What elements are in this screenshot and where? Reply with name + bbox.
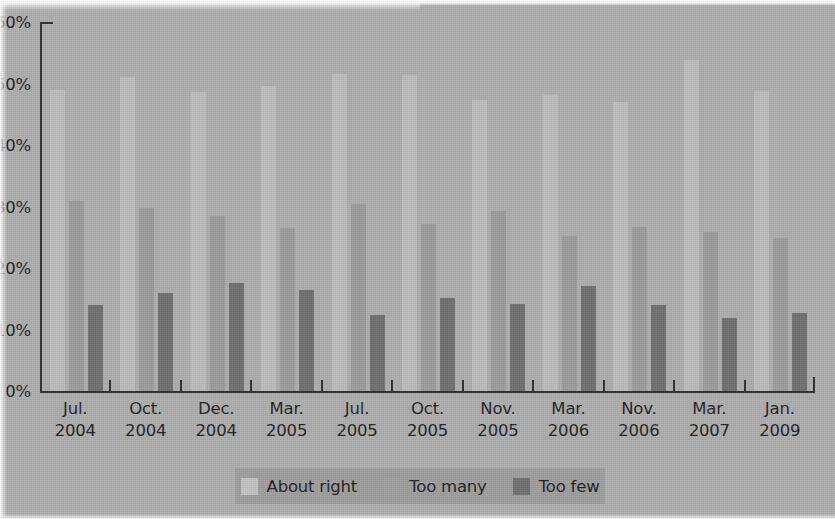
legend-swatch-icon (513, 478, 530, 495)
bar (792, 313, 807, 391)
bar (722, 318, 737, 391)
x-tick-label-month: Mar. (551, 399, 585, 418)
bar (210, 216, 225, 391)
x-tick-label: Dec.2004 (181, 398, 251, 442)
bar (543, 95, 558, 391)
bar (299, 290, 314, 391)
bar-group (674, 22, 744, 391)
x-tick-label-month: Mar. (692, 399, 726, 418)
x-tick-label: Mar.2007 (674, 398, 744, 442)
bar-group (463, 22, 533, 391)
x-tick-label: Oct.2005 (392, 398, 462, 442)
bar-group (181, 22, 251, 391)
bar (351, 204, 366, 391)
legend-label: Too few (539, 477, 600, 496)
bar-group (604, 22, 674, 391)
bar (88, 305, 103, 391)
bar-group (745, 22, 815, 391)
plot-area: 0%10%20%30%40%50%60% (40, 22, 815, 393)
x-tick-label-month: Mar. (270, 399, 304, 418)
legend-swatch-icon (241, 478, 258, 495)
x-tick-label-month: Dec. (198, 399, 234, 418)
bar (632, 227, 647, 391)
x-tick-label-year: 2004 (40, 420, 110, 442)
x-tick-label: Oct.2004 (110, 398, 180, 442)
y-tick-label: 0% (5, 382, 31, 401)
bar (69, 201, 84, 391)
bar (773, 238, 788, 391)
legend-label: About right (267, 477, 358, 496)
bar (158, 293, 173, 391)
bar-chart-figure: 0%10%20%30%40%50%60% Jul.2004Oct.2004Dec… (0, 0, 835, 519)
x-tick-label-year: 2009 (745, 420, 815, 442)
bar (613, 102, 628, 391)
bar (510, 304, 525, 391)
x-tick-label-month: Jul. (63, 399, 87, 418)
bar (120, 77, 135, 391)
bar (581, 286, 596, 391)
scan-edge-left (0, 0, 7, 519)
x-tick-label-year: 2005 (392, 420, 462, 442)
legend-item[interactable]: Too many (383, 477, 487, 496)
bar (491, 211, 506, 391)
x-tick-label: Jan.2009 (745, 398, 815, 442)
bar (684, 60, 699, 391)
x-tick-label: Mar.2006 (533, 398, 603, 442)
x-tick-label-year: 2004 (181, 420, 251, 442)
x-tick-label-month: Oct. (411, 399, 444, 418)
bar (370, 315, 385, 391)
bar-group (251, 22, 321, 391)
x-axis-line (40, 391, 815, 393)
bar-group (110, 22, 180, 391)
bar-group (533, 22, 603, 391)
x-tick-label-month: Nov. (621, 399, 656, 418)
scan-edge-top-highlight (0, 0, 420, 11)
bar (332, 74, 347, 391)
legend-item[interactable]: Too few (513, 477, 600, 496)
chart-legend: About rightToo manyToo few (235, 468, 605, 504)
x-tick-label: Nov.2006 (604, 398, 674, 442)
legend-item[interactable]: About right (241, 477, 358, 496)
x-axis-labels: Jul.2004Oct.2004Dec.2004Mar.2005Jul.2005… (40, 398, 815, 446)
bar-group (392, 22, 462, 391)
bar-group (40, 22, 110, 391)
bar (191, 92, 206, 392)
x-tick-label-year: 2006 (533, 420, 603, 442)
bar (421, 224, 436, 391)
x-tick-label-year: 2007 (674, 420, 744, 442)
x-tick-label-month: Jan. (765, 399, 795, 418)
legend-label: Too many (409, 477, 487, 496)
bar (440, 298, 455, 391)
x-tick-label: Jul.2005 (322, 398, 392, 442)
x-tick-label-month: Jul. (345, 399, 369, 418)
bar (651, 305, 666, 391)
scan-edge-bottom (0, 514, 835, 519)
bar (703, 232, 718, 391)
bar (754, 91, 769, 391)
x-tick-label: Nov.2005 (463, 398, 533, 442)
x-tick-label-month: Nov. (480, 399, 515, 418)
bar (139, 208, 154, 391)
x-tick-label: Jul.2004 (40, 398, 110, 442)
x-tick-label-year: 2005 (251, 420, 321, 442)
bar-group (322, 22, 392, 391)
bar (50, 90, 65, 391)
bar (261, 86, 276, 391)
x-tick-label: Mar.2005 (251, 398, 321, 442)
bar (402, 75, 417, 391)
bar (229, 283, 244, 391)
x-tick-label-month: Oct. (129, 399, 162, 418)
legend-swatch-icon (383, 478, 400, 495)
x-tick-label-year: 2004 (110, 420, 180, 442)
x-tick-label-year: 2006 (604, 420, 674, 442)
bar (280, 228, 295, 391)
x-tick-label-year: 2005 (463, 420, 533, 442)
bar (472, 100, 487, 391)
bar (562, 236, 577, 391)
x-tick-label-year: 2005 (322, 420, 392, 442)
